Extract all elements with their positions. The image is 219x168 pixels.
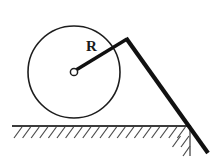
circle-center-marker [70, 68, 77, 75]
diagram-svg [0, 0, 219, 168]
ground-group [12, 126, 191, 156]
tangent-line [126, 38, 208, 153]
radius-label: R [86, 39, 97, 54]
figure-canvas: R [0, 0, 219, 168]
ground-hatching [14, 127, 190, 156]
